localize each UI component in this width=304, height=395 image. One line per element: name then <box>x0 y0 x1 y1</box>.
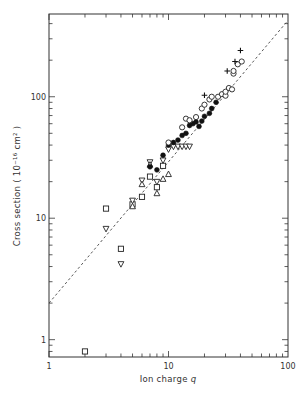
circle-open-marker <box>209 94 214 99</box>
triangle-up-marker <box>154 190 160 196</box>
axis-ticks <box>49 14 288 357</box>
plus-marker <box>238 48 244 54</box>
triangle-down-marker <box>154 179 160 185</box>
x-tick-label: 100 <box>280 362 295 371</box>
series-open-square <box>82 163 165 354</box>
series-filled-circle <box>148 100 219 172</box>
circle-filled-marker <box>207 111 212 116</box>
square-marker <box>103 206 108 211</box>
square-marker <box>147 174 152 179</box>
triangle-up-marker <box>166 171 172 177</box>
plus-marker <box>224 68 230 74</box>
series-open-circle <box>166 59 244 145</box>
circle-filled-marker <box>155 167 160 172</box>
fit-line <box>49 20 288 303</box>
triangle-down-marker <box>160 158 166 164</box>
plus-marker <box>202 92 208 98</box>
circle-filled-marker <box>202 114 207 119</box>
dashed-fit-line <box>49 20 288 303</box>
triangle-down-marker <box>103 226 109 232</box>
axis-tick-labels: 110100110100 <box>31 93 296 371</box>
circle-filled-marker <box>161 153 166 158</box>
circle-open-marker <box>202 102 207 107</box>
square-marker <box>118 246 123 251</box>
circle-open-marker <box>187 118 192 123</box>
circle-open-marker <box>180 125 185 130</box>
circle-filled-marker <box>184 131 189 136</box>
x-axis-title: Ion charge q <box>140 374 197 384</box>
y-tick-label: 100 <box>31 93 46 102</box>
circle-filled-marker <box>171 140 176 145</box>
triangle-down-marker <box>118 262 124 268</box>
series-open-down-triangle <box>103 144 192 267</box>
circle-open-marker <box>193 114 198 119</box>
plot-frame <box>49 14 288 357</box>
circle-filled-marker <box>194 120 199 125</box>
square-marker <box>139 194 144 199</box>
circle-filled-marker <box>214 100 219 105</box>
circle-filled-marker <box>197 124 202 129</box>
y-axis-title: Cross section ( 10⁻¹⁶ cm² ) <box>12 126 22 247</box>
circle-open-marker <box>229 87 234 92</box>
circle-open-marker <box>239 59 244 64</box>
circle-filled-marker <box>209 106 214 111</box>
circle-open-marker <box>231 68 236 73</box>
x-tick-label: 10 <box>163 362 173 371</box>
plot-area <box>49 14 288 357</box>
circle-open-marker <box>166 140 171 145</box>
data-points <box>82 48 244 354</box>
circle-filled-marker <box>176 138 181 143</box>
scatter-chart: 110100110100 Ion charge q Cross section … <box>0 0 304 395</box>
circle-filled-marker <box>148 164 153 169</box>
circle-filled-marker <box>199 119 204 124</box>
square-marker <box>82 349 87 354</box>
y-tick-label: 10 <box>36 214 46 223</box>
x-tick-label: 1 <box>46 362 51 371</box>
y-tick-label: 1 <box>41 336 46 345</box>
series-plus <box>202 48 244 98</box>
triangle-up-marker <box>139 181 145 187</box>
